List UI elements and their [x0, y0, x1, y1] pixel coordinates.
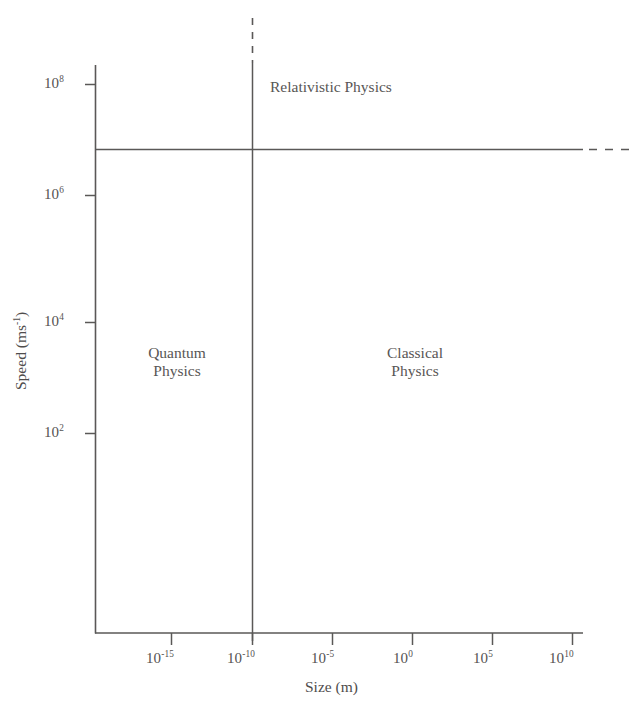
y-tick-label-10e8: 108: [44, 75, 64, 93]
x-tick-label-10e0: 100: [393, 650, 413, 668]
classical-label-line1: Classical: [387, 344, 443, 361]
quantum-label-line2: Physics: [122, 362, 232, 380]
plot-canvas: [0, 0, 633, 708]
x-tick-label-10e10: 1010: [549, 650, 574, 668]
y-axis-title: Speed (ms-1): [12, 312, 30, 390]
x-axis-title: Size (m): [305, 678, 358, 696]
x-tick-label-10e-5: 10-5: [311, 650, 334, 668]
physics-regimes-figure: 108 106 104 102 10-15 10-10 10-5 100 105…: [0, 0, 633, 708]
region-label-quantum-physics: Quantum Physics: [122, 344, 232, 381]
y-tick-label-10e6: 106: [44, 186, 64, 204]
x-tick-label-10e-15: 10-15: [146, 650, 174, 668]
y-tick-label-10e2: 102: [44, 424, 64, 442]
region-label-classical-physics: Classical Physics: [360, 344, 470, 381]
y-tick-marks: [85, 85, 95, 434]
quantum-label-line1: Quantum: [148, 344, 206, 361]
x-tick-marks: [172, 633, 573, 645]
region-label-relativistic-physics: Relativistic Physics: [270, 78, 392, 96]
y-tick-label-10e4: 104: [44, 313, 64, 331]
classical-label-line2: Physics: [360, 362, 470, 380]
x-tick-label-10e5: 105: [473, 650, 493, 668]
x-tick-label-10e-10: 10-10: [227, 650, 255, 668]
